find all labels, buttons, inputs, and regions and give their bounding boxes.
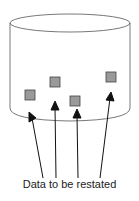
data-item-4 — [106, 72, 116, 82]
data-item-1 — [25, 90, 35, 100]
data-item-3 — [70, 96, 80, 106]
data-items — [25, 72, 116, 106]
diagram-caption: Data to be restated — [0, 178, 139, 190]
data-item-2 — [50, 77, 60, 87]
database-diagram — [0, 0, 139, 201]
